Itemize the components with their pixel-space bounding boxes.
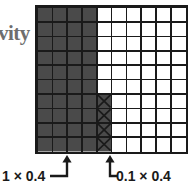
grid-cell (82, 65, 97, 79)
grid-cell (38, 94, 53, 108)
grid-cell (38, 8, 53, 22)
grid-cell (82, 36, 97, 50)
grid-cell (67, 36, 82, 50)
grid-cell (52, 123, 67, 137)
grid-cell (38, 108, 53, 122)
grid-cell (82, 22, 97, 36)
grid-cell (38, 80, 53, 94)
grid-cell (67, 51, 82, 65)
grid-cell (82, 51, 97, 65)
y-axis-label: vity (0, 23, 30, 44)
grid-cell (67, 94, 82, 108)
grid-cell (52, 137, 67, 151)
left-dimension-arrow (62, 155, 71, 172)
grid-cell (52, 80, 67, 94)
grid-cell (82, 8, 97, 22)
grid-cell (52, 65, 67, 79)
figure-canvas: vity 1 × 0.4 0.1 × 0.4 (0, 0, 196, 187)
grid-cell (67, 8, 82, 22)
left-dimension-leader (50, 172, 67, 176)
grid-cell (82, 94, 97, 108)
grid-cell (67, 22, 82, 36)
grid-cell (67, 80, 82, 94)
grid-cell (82, 108, 97, 122)
grid-cell (67, 123, 82, 137)
grid-cell (38, 123, 53, 137)
grid-cell (52, 8, 67, 22)
grid-cell (82, 137, 97, 151)
right-dimension-label: 0.1 × 0.4 (116, 169, 171, 183)
right-dimension-arrow (105, 155, 114, 172)
grid-cell (52, 22, 67, 36)
subdivision-grid (35, 5, 188, 154)
grid-cell (52, 36, 67, 50)
left-dimension-label: 1 × 0.4 (2, 169, 45, 183)
grid-cell (38, 36, 53, 50)
grid-cell (67, 137, 82, 151)
grid-cell (82, 80, 97, 94)
grid-cell (82, 123, 97, 137)
grid-cell (38, 65, 53, 79)
grid-cell (38, 51, 53, 65)
grid-container (35, 5, 188, 154)
grid-cell (67, 108, 82, 122)
grid-cell (38, 22, 53, 36)
grid-cell (52, 94, 67, 108)
grid-cell (67, 65, 82, 79)
grid-cell (52, 108, 67, 122)
grid-cell (38, 137, 53, 151)
grid-cell (52, 51, 67, 65)
